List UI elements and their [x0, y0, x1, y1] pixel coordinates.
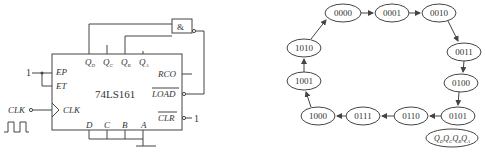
state-0100: 0100 [444, 74, 478, 92]
state-0000: 0000 [325, 4, 361, 22]
svg-text:0111: 0111 [354, 111, 371, 121]
and-gate-label: & [177, 22, 184, 32]
svg-text:0101: 0101 [449, 111, 467, 121]
svg-text:0110: 0110 [402, 111, 420, 121]
counter-circuit: 74LS161 & QD QC QB QA EP ET 1 CLK CLK [4, 19, 204, 146]
svg-text:0010: 0010 [430, 8, 449, 18]
pin-load: LOAD [151, 89, 176, 99]
clock-pulse-waveform [4, 122, 29, 132]
ground-bus [89, 130, 143, 146]
svg-text:0011: 0011 [455, 47, 473, 57]
state-1001: 1001 [287, 72, 321, 90]
pin-c: C [104, 120, 111, 130]
clk-input-terminal [29, 108, 32, 111]
svg-text:0100: 0100 [452, 78, 471, 88]
pin-clr: CLR [158, 113, 175, 123]
pin-clk: CLK [63, 105, 81, 115]
state-0101: 0101 [441, 107, 475, 125]
svg-text:1010: 1010 [295, 43, 314, 53]
clk-input-label: CLK [8, 105, 26, 115]
pin-rco: RCO [157, 69, 177, 79]
diagram-canvas: 74LS161 & QD QC QB QA EP ET 1 CLK CLK [0, 0, 485, 156]
transition-arrow [463, 61, 464, 72]
state-0001: 0001 [375, 4, 409, 22]
pin-ep: EP [55, 67, 67, 77]
state-1010: 1010 [287, 39, 321, 57]
state-legend: QDQCQBQA [426, 129, 478, 147]
input-one-left: 1 [26, 67, 31, 78]
chip-label: 74LS161 [95, 88, 135, 100]
state-0010: 0010 [422, 4, 456, 22]
qd-to-gate-wire [89, 24, 172, 54]
transition-arrow [311, 20, 326, 39]
qb-to-gate-wire [125, 36, 172, 54]
pin-d: D [85, 120, 93, 130]
pin-b: B [122, 120, 128, 130]
state-0111: 0111 [346, 107, 380, 125]
state-diagram: 0000 0001 0010 0011 0100 0101 0110 0111 … [287, 4, 481, 147]
svg-text:1001: 1001 [295, 76, 313, 86]
svg-text:1000: 1000 [309, 111, 328, 121]
transition-arrow [306, 92, 311, 107]
gate-inverter-bubble [192, 29, 195, 32]
transition-arrow [458, 92, 459, 105]
input-one-right: 1 [194, 113, 199, 124]
transition-arrow [448, 21, 458, 41]
gate-to-load-wire [186, 31, 204, 94]
svg-text:0001: 0001 [383, 8, 401, 18]
et-wire [42, 73, 52, 86]
state-0110: 0110 [394, 107, 428, 125]
clr-bubble [182, 116, 185, 119]
state-1000: 1000 [301, 107, 335, 125]
svg-text:0000: 0000 [334, 8, 353, 18]
svg-text:QDQCQBQA: QDQCQBQA [434, 134, 471, 144]
state-0011: 0011 [447, 43, 481, 61]
load-bubble [182, 92, 185, 95]
pin-et: ET [55, 81, 67, 91]
pin-a: A [140, 120, 147, 130]
